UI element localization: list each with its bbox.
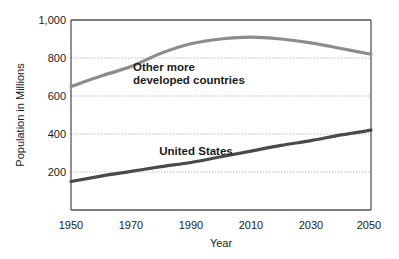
series-annotation-other-line2: developed countries bbox=[133, 74, 245, 86]
y-axis-title: Population in Millions bbox=[14, 63, 26, 167]
y-tick-label-400: 400 bbox=[48, 128, 66, 140]
chart-canvas: 1,000 800 600 400 200 1950 1970 1990 201… bbox=[0, 0, 399, 259]
population-line-chart: 1,000 800 600 400 200 1950 1970 1990 201… bbox=[0, 0, 399, 259]
plot-area-background bbox=[71, 20, 371, 210]
x-tick-label-2010: 2010 bbox=[239, 219, 263, 231]
x-tick-labels: 1950 1970 1990 2010 2030 2050 bbox=[59, 219, 381, 231]
x-tick-label-2030: 2030 bbox=[299, 219, 323, 231]
series-annotation-united-states: United States bbox=[159, 145, 233, 157]
x-tick-label-2050: 2050 bbox=[357, 219, 381, 231]
series-annotation-other-line1: Other more bbox=[133, 61, 195, 73]
y-tick-label-200: 200 bbox=[48, 166, 66, 178]
y-tick-label-800: 800 bbox=[48, 52, 66, 64]
y-tick-labels: 1,000 800 600 400 200 bbox=[38, 14, 66, 178]
x-tick-label-1950: 1950 bbox=[59, 219, 83, 231]
y-tick-label-600: 600 bbox=[48, 90, 66, 102]
x-tick-label-1970: 1970 bbox=[119, 219, 143, 231]
x-axis-title: Year bbox=[210, 237, 233, 249]
y-tick-label-1000: 1,000 bbox=[38, 14, 66, 26]
x-tick-label-1990: 1990 bbox=[179, 219, 203, 231]
